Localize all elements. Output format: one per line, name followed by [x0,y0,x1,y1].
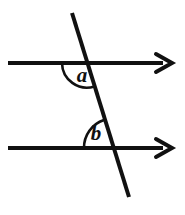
geometry-figure: a b [0,0,185,215]
angle-b-label: b [91,121,102,145]
angle-a-label: a [77,63,88,87]
geometry-canvas: a b [0,0,185,215]
figure-background [0,0,185,215]
